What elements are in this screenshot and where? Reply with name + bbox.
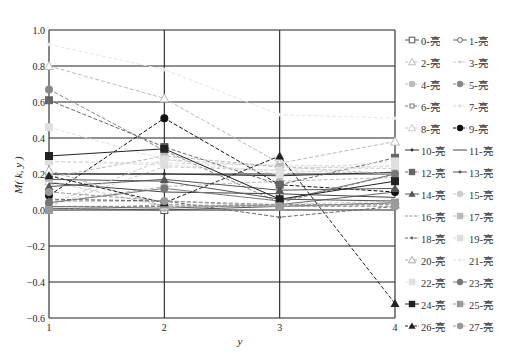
- legend-item: 4-亮: [404, 75, 440, 93]
- legend-marker-icon: [452, 35, 468, 45]
- legend-label: 3-亮: [469, 55, 488, 70]
- legend-item: 9-亮: [452, 119, 488, 137]
- legend-label: 13-亮: [469, 165, 493, 180]
- x-tick-label: 3: [277, 322, 282, 333]
- legend-label: 2-亮: [421, 55, 440, 70]
- x-tick-label: 2: [162, 322, 167, 333]
- legend-item: 23-亮: [452, 273, 493, 291]
- legend-item: 21-亮: [452, 251, 493, 269]
- legend-marker-icon: [452, 145, 468, 155]
- legend-item: 18-亮: [404, 229, 445, 247]
- legend-item: 10-亮: [404, 141, 445, 159]
- legend-marker-icon: [452, 57, 468, 67]
- y-tick-label: −0.4: [27, 277, 45, 288]
- y-tick-label: 0.0: [33, 205, 46, 216]
- legend-marker-icon: [404, 123, 420, 133]
- legend-label: 8-亮: [421, 121, 440, 136]
- legend-item: 14-亮: [404, 185, 445, 203]
- legend-marker-icon: [404, 145, 420, 155]
- legend-item: 19-亮: [452, 229, 493, 247]
- x-axis-ticks: 1234: [47, 322, 398, 333]
- legend-item: 3-亮: [452, 53, 488, 71]
- x-tick-label: 4: [393, 322, 398, 333]
- legend-item: 24-亮: [404, 295, 445, 313]
- y-tick-label: 1.0: [33, 25, 46, 36]
- series-21: [47, 43, 397, 120]
- legend-item: 20-亮: [404, 251, 445, 269]
- legend-item: 17-亮: [452, 207, 493, 225]
- legend-item: 8-亮: [404, 119, 440, 137]
- legend-label: 27-亮: [469, 319, 493, 334]
- legend-marker-icon: [452, 79, 468, 89]
- series-14: [45, 175, 400, 194]
- legend-item: 27-亮: [452, 317, 493, 335]
- legend-label: 4-亮: [421, 77, 440, 92]
- legend-label: 21-亮: [469, 253, 493, 268]
- legend-marker-icon: [452, 277, 468, 287]
- y-axis-ticks: 1.00.80.60.40.20.0−0.2−0.4−0.6: [27, 25, 45, 324]
- x-tick-label: 1: [47, 322, 52, 333]
- y-tick-label: 0.4: [33, 133, 46, 144]
- legend-item: 0-亮: [404, 31, 440, 49]
- legend-marker-icon: [452, 299, 468, 309]
- legend-label: 10-亮: [421, 143, 445, 158]
- legend-marker-icon: [404, 57, 420, 67]
- legend-marker-icon: [404, 35, 420, 45]
- legend-item: 15-亮: [452, 185, 493, 203]
- legend-item: 7-亮: [452, 97, 488, 115]
- x-axis-label: y: [237, 335, 243, 347]
- chart-series: [45, 43, 400, 308]
- legend-label: 22-亮: [421, 275, 445, 290]
- legend-marker-icon: [452, 101, 468, 111]
- legend-marker-icon: [404, 167, 420, 177]
- legend-marker-icon: [404, 211, 420, 221]
- legend-label: 20-亮: [421, 253, 445, 268]
- legend-label: 14-亮: [421, 187, 445, 202]
- legend-item: 13-亮: [452, 163, 493, 181]
- legend-item: 26-亮: [404, 317, 445, 335]
- legend-item: 16-亮: [404, 207, 445, 225]
- y-tick-label: 0.8: [33, 61, 46, 72]
- legend-item: 11-亮: [452, 141, 493, 159]
- legend-marker-icon: [452, 321, 468, 331]
- legend-marker-icon: [452, 255, 468, 265]
- legend-label: 0-亮: [421, 33, 440, 48]
- y-tick-label: −0.2: [27, 241, 45, 252]
- legend-marker-icon: [452, 233, 468, 243]
- y-tick-label: −0.6: [27, 313, 45, 324]
- y-tick-label: 0.2: [33, 169, 46, 180]
- legend-marker-icon: [452, 211, 468, 221]
- legend-item: 6-亮: [404, 97, 440, 115]
- legend-label: 19-亮: [469, 231, 493, 246]
- legend-label: 23-亮: [469, 275, 493, 290]
- legend-marker-icon: [452, 123, 468, 133]
- legend-label: 24-亮: [421, 297, 445, 312]
- legend-marker-icon: [404, 79, 420, 89]
- legend-marker-icon: [452, 167, 468, 177]
- legend-label: 1-亮: [469, 33, 488, 48]
- legend-label: 16-亮: [421, 209, 445, 224]
- legend-label: 18-亮: [421, 231, 445, 246]
- legend-item: 12-亮: [404, 163, 445, 181]
- legend-item: 25-亮: [452, 295, 493, 313]
- legend-item: 5-亮: [452, 75, 488, 93]
- legend-label: 5-亮: [469, 77, 488, 92]
- legend-label: 9-亮: [469, 121, 488, 136]
- legend-marker-icon: [404, 255, 420, 265]
- legend-label: 11-亮: [469, 143, 493, 158]
- legend-label: 15-亮: [469, 187, 493, 202]
- legend-marker-icon: [404, 277, 420, 287]
- legend-label: 12-亮: [421, 165, 445, 180]
- y-axis-label: M( k, y ): [12, 156, 25, 195]
- legend-marker-icon: [404, 189, 420, 199]
- legend-label: 17-亮: [469, 209, 493, 224]
- legend-marker-icon: [404, 233, 420, 243]
- legend-item: 22-亮: [404, 273, 445, 291]
- legend-label: 6-亮: [421, 99, 440, 114]
- legend-marker-icon: [404, 101, 420, 111]
- legend-item: 2-亮: [404, 53, 440, 71]
- legend-label: 26-亮: [421, 319, 445, 334]
- legend-item: 1-亮: [452, 31, 488, 49]
- legend-marker-icon: [404, 299, 420, 309]
- y-tick-label: 0.6: [33, 97, 46, 108]
